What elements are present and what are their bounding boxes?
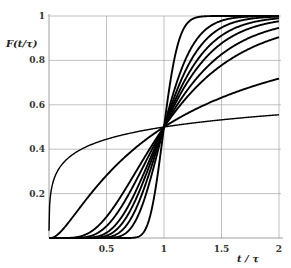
- y-tick-label: 0.6: [29, 100, 45, 110]
- x-tick-label: 0.5: [99, 244, 115, 254]
- y-tick-label: 0.2: [29, 189, 45, 199]
- x-tick-label: 1: [161, 244, 167, 254]
- y-tick-label: 0.8: [29, 55, 45, 65]
- chart-container: 0.511.520.20.40.60.81F(t/τ)t / τ: [0, 0, 291, 268]
- line-chart: 0.511.520.20.40.60.81F(t/τ)t / τ: [0, 0, 291, 268]
- x-axis-label: t / τ: [237, 253, 259, 264]
- x-tick-label: 2: [276, 244, 282, 254]
- x-tick-label: 1.5: [214, 244, 230, 254]
- y-tick-label: 0.4: [29, 144, 45, 154]
- y-axis-label: F(t/τ): [5, 38, 38, 49]
- y-tick-label: 1: [39, 11, 45, 21]
